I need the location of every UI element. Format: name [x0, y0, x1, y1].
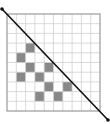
shaded-cell [26, 43, 35, 53]
shaded-cell [26, 63, 35, 73]
grid-diagram-canvas [0, 0, 110, 124]
start-point-icon [0, 7, 4, 11]
shaded-cell [44, 82, 53, 92]
shaded-cell [54, 92, 63, 102]
shaded-cell [35, 72, 44, 82]
shaded-cell [16, 72, 25, 82]
shaded-cell [35, 92, 44, 102]
shaded-cell [16, 53, 25, 63]
shaded-cell [44, 63, 53, 73]
end-point-icon [106, 118, 110, 122]
shaded-cell [63, 82, 72, 92]
grid-diagram [0, 0, 110, 124]
